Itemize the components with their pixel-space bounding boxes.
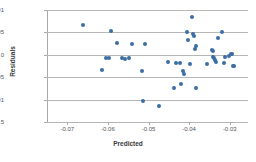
y-tick-mark bbox=[44, 122, 47, 123]
data-point bbox=[214, 60, 218, 64]
gridline-y bbox=[47, 32, 248, 33]
x-tick-mark bbox=[230, 122, 231, 125]
y-tick-mark bbox=[44, 10, 47, 11]
y-axis-title: Residuals bbox=[9, 32, 16, 92]
data-point bbox=[192, 34, 196, 38]
data-point bbox=[194, 86, 198, 90]
scatter-chart: Predicted Residuals 0.010.0050-0.005-0.0… bbox=[0, 0, 256, 162]
data-point bbox=[178, 61, 182, 65]
data-point bbox=[130, 42, 134, 46]
plot-area bbox=[47, 10, 248, 122]
data-point bbox=[172, 86, 176, 90]
data-point bbox=[107, 56, 111, 60]
y-tick-mark bbox=[44, 100, 47, 101]
gridline-y bbox=[47, 122, 248, 123]
data-point bbox=[141, 99, 145, 103]
gridline-y bbox=[47, 55, 248, 56]
y-tick-label: 0.005 bbox=[0, 29, 4, 35]
x-tick-label: -0.05 bbox=[129, 126, 169, 132]
data-point bbox=[185, 30, 189, 34]
x-tick-label: -0.06 bbox=[88, 126, 128, 132]
gridline-y bbox=[47, 100, 248, 101]
data-point bbox=[157, 104, 161, 108]
data-point bbox=[232, 64, 236, 68]
data-point bbox=[188, 62, 192, 66]
data-point bbox=[179, 82, 183, 86]
data-point bbox=[216, 36, 220, 40]
data-point bbox=[205, 62, 209, 66]
y-tick-label: 0.01 bbox=[0, 7, 4, 13]
y-tick-label: -0.015 bbox=[0, 119, 4, 125]
x-tick-label: -0.04 bbox=[169, 126, 209, 132]
data-point bbox=[100, 68, 104, 72]
y-tick-label: -0.005 bbox=[0, 74, 4, 80]
x-tick-mark bbox=[108, 122, 109, 125]
data-point bbox=[127, 56, 131, 60]
data-point bbox=[211, 49, 215, 53]
data-point bbox=[190, 15, 194, 19]
data-point bbox=[194, 44, 198, 48]
x-axis-title: Predicted bbox=[0, 140, 256, 147]
data-point bbox=[140, 69, 144, 73]
x-tick-mark bbox=[189, 122, 190, 125]
data-point bbox=[115, 41, 119, 45]
y-tick-mark bbox=[44, 77, 47, 78]
data-point bbox=[222, 61, 226, 65]
y-tick-mark bbox=[44, 32, 47, 33]
data-point bbox=[182, 72, 186, 76]
data-point bbox=[220, 30, 224, 34]
y-tick-label: -0.01 bbox=[0, 97, 4, 103]
data-point bbox=[166, 60, 170, 64]
y-tick-mark bbox=[44, 55, 47, 56]
data-point bbox=[186, 38, 190, 42]
x-tick-mark bbox=[67, 122, 68, 125]
gridline-y bbox=[47, 10, 248, 11]
y-tick-label: 0 bbox=[0, 52, 4, 58]
gridline-y bbox=[47, 77, 248, 78]
x-tick-label: -0.07 bbox=[47, 126, 87, 132]
data-point bbox=[81, 23, 85, 27]
x-tick-label: -0.03 bbox=[210, 126, 250, 132]
data-point bbox=[143, 42, 147, 46]
x-tick-mark bbox=[149, 122, 150, 125]
